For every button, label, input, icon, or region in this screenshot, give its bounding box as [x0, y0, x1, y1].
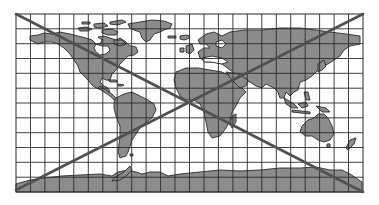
world-map: World map with grid, crossed out — [0, 0, 379, 205]
map-canvas — [0, 0, 379, 205]
